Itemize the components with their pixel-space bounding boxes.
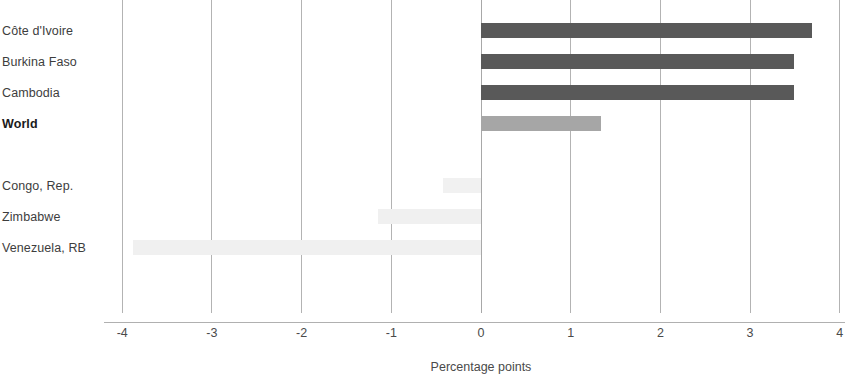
x-tick-label: 0 xyxy=(461,325,501,341)
bar xyxy=(481,85,794,100)
gridline xyxy=(122,0,123,313)
plot-area: Côte d'IvoireBurkina FasoCambodiaWorldCo… xyxy=(0,0,864,324)
gridline xyxy=(750,0,751,313)
x-tick-label: 3 xyxy=(730,325,770,341)
gridline xyxy=(660,0,661,313)
x-tick-label: -3 xyxy=(192,325,232,341)
gridline xyxy=(570,0,571,313)
category-label: Zimbabwe xyxy=(2,210,60,224)
x-tick-label: -4 xyxy=(102,325,142,341)
category-label: Côte d'Ivoire xyxy=(2,24,73,38)
x-tick-label: 1 xyxy=(551,325,591,341)
x-tick-label: -1 xyxy=(371,325,411,341)
category-label: Burkina Faso xyxy=(2,55,77,69)
category-label: Venezuela, RB xyxy=(2,241,86,255)
x-tick-label: 2 xyxy=(640,325,680,341)
x-axis-title-text: Percentage points xyxy=(431,360,532,374)
bar xyxy=(481,116,601,131)
x-tick-label: 4 xyxy=(820,325,860,341)
bar-chart: Côte d'IvoireBurkina FasoCambodiaWorldCo… xyxy=(0,0,864,384)
gridline xyxy=(211,0,212,313)
bar xyxy=(378,209,481,224)
bar xyxy=(443,178,481,193)
bar xyxy=(481,54,794,69)
x-axis-title: Percentage points xyxy=(0,360,864,374)
gridline xyxy=(839,0,840,313)
category-label: Congo, Rep. xyxy=(2,179,73,193)
category-label: World xyxy=(2,117,38,131)
zero-reference-line xyxy=(481,0,482,313)
x-axis-line xyxy=(104,322,845,323)
gridline xyxy=(391,0,392,313)
bar xyxy=(481,23,812,38)
gridline xyxy=(301,0,302,313)
x-tick-label: -2 xyxy=(282,325,322,341)
category-label: Cambodia xyxy=(2,86,60,100)
bar xyxy=(133,240,481,255)
